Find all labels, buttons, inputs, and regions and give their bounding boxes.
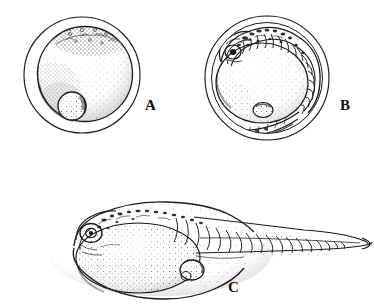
panel-b-oil-globule xyxy=(253,103,273,118)
developmental-stages-figure: A xyxy=(0,0,374,308)
panel-a-label: A xyxy=(145,97,156,113)
panel-b-label: B xyxy=(340,97,350,113)
panel-c-label: C xyxy=(228,279,239,295)
figure-root: A xyxy=(0,0,374,308)
